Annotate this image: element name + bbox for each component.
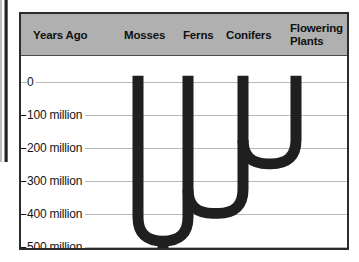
- branch-ferns-conifers-split: [188, 76, 243, 214]
- branch-conifers-flowering-split: [243, 76, 296, 164]
- plot-area: 0 100 million 200 million 300 million 40…: [21, 56, 347, 248]
- column-header-mosses: Mosses: [124, 29, 165, 42]
- column-header-flowering-plants: Flowering Plants: [290, 22, 343, 47]
- axis-title-years-ago: Years Ago: [33, 29, 87, 42]
- evolutionary-tree: [21, 56, 347, 248]
- column-header-ferns: Ferns: [183, 29, 214, 42]
- column-header-conifers: Conifers: [226, 29, 271, 42]
- phylogenetic-tree-figure: Years Ago Mosses Ferns Conifers Flowerin…: [19, 12, 349, 250]
- page-edge-artifact: [4, 0, 8, 162]
- branch-mosses-ferns-split: [138, 76, 188, 241]
- column-header-band: Years Ago Mosses Ferns Conifers Flowerin…: [21, 14, 347, 56]
- page-edge-shadow: [0, 0, 2, 162]
